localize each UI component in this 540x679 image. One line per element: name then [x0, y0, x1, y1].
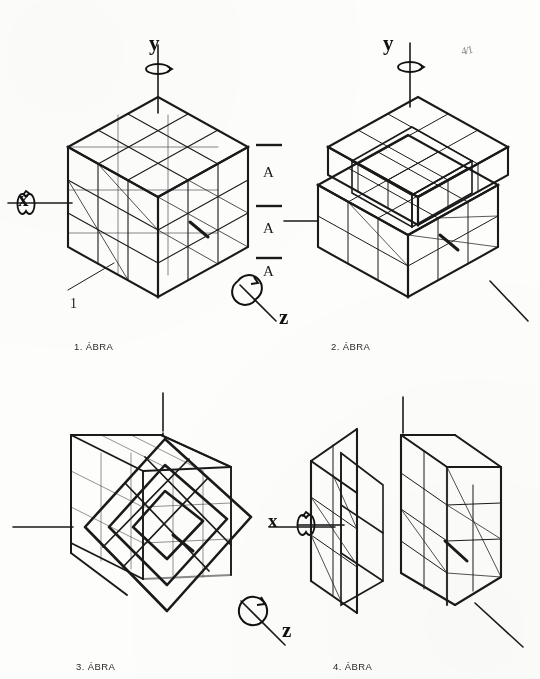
axis-label-y-figure-1: y [149, 33, 160, 54]
axis-label-z-figure-3: z [282, 620, 291, 641]
figure-1-drawing [40, 85, 280, 320]
z-rotation-arrow-icon [239, 597, 267, 625]
z-axis-line [490, 281, 528, 321]
y-rotation-arrow-icon [398, 62, 424, 72]
axis-label-y-figure-2: y [383, 33, 394, 54]
callout-1-figure-1: 1 [70, 296, 77, 312]
z-axis-line [241, 601, 285, 645]
z-axis-line [475, 603, 523, 647]
figure-3-caption: 3. ÁBRA [76, 661, 115, 672]
figure-4-caption: 4. ÁBRA [333, 661, 372, 672]
section-mark-a-bottom: A [263, 263, 274, 280]
y-rotation-arrow-icon [146, 64, 172, 74]
figure-4-drawing [305, 405, 535, 645]
section-mark-a-top: A [263, 164, 274, 181]
figure-2-drawing [300, 85, 535, 320]
axis-label-x-figure-1: x [18, 189, 29, 210]
drawing-sheet: y x z 1 A A A [0, 0, 540, 679]
section-mark-a-middle: A [263, 220, 274, 237]
axis-label-z-figure-1: z [279, 307, 288, 328]
page-margin-mark: 4/1 [460, 43, 473, 57]
figure-1-caption: 1. ÁBRA [74, 341, 113, 352]
figure-2-caption: 2. ÁBRA [331, 341, 370, 352]
figure-3-drawing [55, 405, 295, 640]
